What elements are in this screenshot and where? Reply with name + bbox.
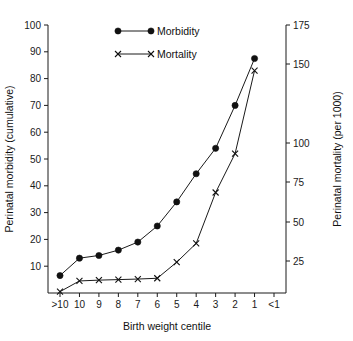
left-tick-label: 60 — [30, 127, 42, 138]
legend-label: Mortality — [157, 48, 197, 60]
left-tick-label: 10 — [30, 261, 42, 272]
left-tick-label: 80 — [30, 73, 42, 84]
left-tick-label: 50 — [30, 154, 42, 165]
data-point-mortality — [193, 240, 199, 246]
x-tick-label: 4 — [193, 299, 199, 310]
x-axis-title: Birth weight centile — [123, 320, 211, 332]
right-tick-label: 150 — [293, 59, 310, 70]
right-tick-label: 25 — [293, 256, 305, 267]
left-axis-ticks: 102030405060708090100 — [24, 20, 48, 272]
data-point-morbidity — [154, 223, 160, 229]
right-tick-label: 75 — [293, 177, 305, 188]
data-point-morbidity — [174, 199, 180, 205]
x-tick-label: 9 — [96, 299, 102, 310]
series-line — [60, 71, 255, 292]
x-tick-label: >10 — [52, 299, 69, 310]
x-tick-label: 6 — [154, 299, 160, 310]
data-point-morbidity — [213, 145, 219, 151]
series-morbidity — [57, 55, 258, 278]
x-tick-label: 3 — [213, 299, 219, 310]
right-tick-label: 50 — [293, 217, 305, 228]
y-axis-title-right: Perinatal mortality (per 1000) — [331, 91, 343, 226]
axis-frame — [48, 25, 286, 293]
x-tick-label: 1 — [252, 299, 258, 310]
data-point-morbidity — [57, 272, 63, 278]
data-point-morbidity — [232, 102, 238, 108]
series-mortality — [57, 68, 258, 295]
x-tick-label: 8 — [116, 299, 122, 310]
x-tick-label: 5 — [174, 299, 180, 310]
right-tick-label: 100 — [293, 138, 310, 149]
left-tick-label: 70 — [30, 100, 42, 111]
data-point-morbidity — [96, 252, 102, 258]
x-axis-ticks: >1010987654321<1 — [52, 293, 281, 310]
series-line — [60, 59, 255, 276]
left-tick-label: 100 — [24, 20, 41, 31]
perinatal-outcome-chart: 102030405060708090100 255075100150175 >1… — [0, 0, 353, 341]
legend-marker-circle — [115, 28, 121, 34]
legend-label: Morbidity — [157, 25, 200, 37]
y-axis-title-left: Perinatal morbidity (cumulative) — [3, 85, 15, 232]
left-tick-label: 20 — [30, 234, 42, 245]
right-tick-label: 175 — [293, 20, 310, 31]
x-tick-label: 7 — [135, 299, 141, 310]
data-point-morbidity — [251, 55, 257, 61]
data-point-mortality — [174, 259, 180, 265]
left-tick-label: 40 — [30, 180, 42, 191]
legend-marker-circle — [148, 28, 154, 34]
legend-item-mortality: Mortality — [115, 48, 197, 60]
x-tick-label: <1 — [268, 299, 280, 310]
data-point-morbidity — [135, 239, 141, 245]
data-point-morbidity — [76, 255, 82, 261]
x-tick-label: 10 — [74, 299, 86, 310]
left-tick-label: 90 — [30, 46, 42, 57]
data-series-layer — [57, 55, 258, 294]
chart-page: 102030405060708090100 255075100150175 >1… — [0, 0, 353, 341]
data-point-mortality — [213, 190, 219, 196]
x-tick-label: 2 — [232, 299, 238, 310]
right-axis-ticks: 255075100150175 — [286, 20, 310, 267]
chart-legend: MorbidityMortality — [115, 25, 200, 60]
legend-item-morbidity: Morbidity — [115, 25, 200, 37]
left-tick-label: 30 — [30, 207, 42, 218]
data-point-morbidity — [115, 247, 121, 253]
data-point-morbidity — [193, 171, 199, 177]
